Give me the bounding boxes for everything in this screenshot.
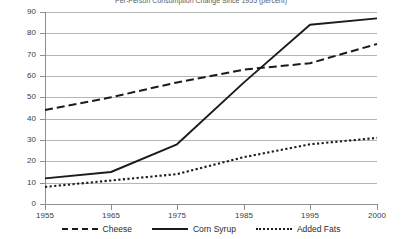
legend-label: Cheese: [103, 224, 132, 234]
legend-item-cheese[interactable]: Cheese: [62, 222, 132, 236]
series-line-corn-syrup: [45, 18, 377, 178]
series-line-added-fats: [45, 138, 377, 187]
legend-swatch-solid-icon: [152, 228, 188, 230]
legend-item-corn-syrup[interactable]: Corn Syrup: [152, 222, 236, 236]
chart-legend: CheeseCorn SyrupAdded Fats: [0, 222, 402, 236]
series-line-cheese: [45, 44, 377, 110]
legend-swatch-dotted-icon: [256, 228, 292, 230]
legend-item-added-fats[interactable]: Added Fats: [256, 222, 340, 236]
legend-swatch-dashed-icon: [62, 228, 98, 230]
legend-label: Corn Syrup: [193, 224, 236, 234]
series-layer: [0, 0, 402, 239]
legend-label: Added Fats: [297, 224, 340, 234]
line-chart: Per-Person Consumption Change Since 1955…: [0, 0, 402, 239]
